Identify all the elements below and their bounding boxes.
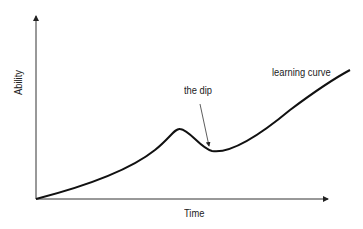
x-axis-label: Time [184,207,204,219]
dip-pointer-arrow [200,104,209,146]
y-axis-label: Ability [12,70,24,95]
diagram-canvas [0,0,363,229]
learning-curve-annotation: learning curve [272,66,331,78]
dip-annotation: the dip [184,84,212,96]
